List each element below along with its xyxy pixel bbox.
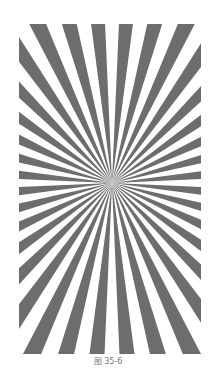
figure-caption: 图 35-6 (0, 355, 216, 366)
radial-rays (19, 24, 201, 354)
siemens-star-figure (19, 24, 201, 354)
